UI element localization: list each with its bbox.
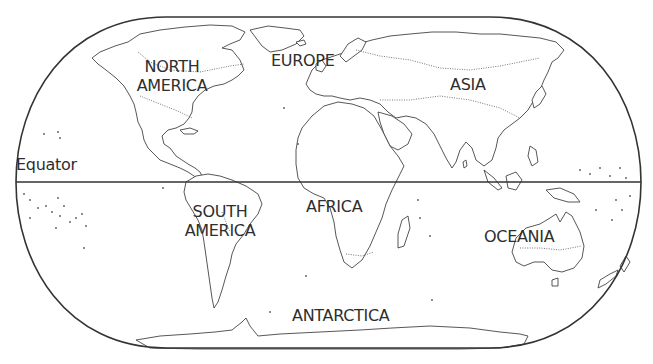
south-america-label-line2: AMERICA (178, 221, 262, 240)
north-america-label-line1: NORTH (132, 57, 212, 76)
europe-label: EUROPE (271, 51, 335, 70)
philippines-shape (528, 146, 538, 166)
borneo-shape (506, 172, 522, 190)
south-america-shape (184, 174, 262, 308)
greenland-shape (250, 26, 304, 52)
south-america-label-line1: SOUTH (178, 202, 262, 221)
sumatra-shape (484, 170, 502, 190)
madagascar-shape (398, 216, 410, 248)
north-america-label-line2: AMERICA (132, 76, 212, 95)
north-america-label: NORTH AMERICA (132, 57, 212, 95)
africa-label: AFRICA (306, 197, 362, 216)
north-america-shape (92, 25, 245, 180)
tasmania-shape (552, 278, 558, 286)
antarctica-label: ANTARCTICA (292, 306, 390, 325)
new-guinea-shape (546, 188, 580, 202)
oceania-label: OCEANIA (484, 227, 554, 246)
caribbean-shape (180, 128, 198, 134)
world-map: Equator NORTH AMERICA EUROPE ASIA SOUTH … (0, 0, 653, 364)
sri-lanka-shape (463, 160, 467, 168)
south-america-label: SOUTH AMERICA (178, 202, 262, 240)
asia-label: ASIA (450, 75, 486, 94)
equator-label: Equator (16, 155, 77, 174)
